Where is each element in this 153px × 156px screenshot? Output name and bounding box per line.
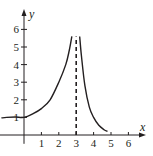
y-axis-label: y <box>28 7 35 21</box>
x-tick-label: 3 <box>73 137 79 149</box>
chart: 123456123456 x y <box>0 0 153 156</box>
y-tick-label: 6 <box>14 23 20 35</box>
curve-left-branch <box>1 36 71 117</box>
y-tick-label: 3 <box>14 76 20 88</box>
x-tick-label: 6 <box>126 137 132 149</box>
x-tick-label: 2 <box>56 137 62 149</box>
x-tick-label: 4 <box>91 137 97 149</box>
x-axis-label: x <box>139 120 146 134</box>
y-tick-label: 2 <box>14 94 20 106</box>
y-tick-label: 4 <box>14 59 20 71</box>
x-tick-label: 5 <box>108 137 114 149</box>
ticks: 123456123456 <box>14 23 132 149</box>
x-tick-label: 1 <box>39 137 45 149</box>
curve-right-branch <box>80 36 108 131</box>
y-tick-label: 5 <box>14 41 20 53</box>
y-axis-arrow <box>22 9 27 16</box>
